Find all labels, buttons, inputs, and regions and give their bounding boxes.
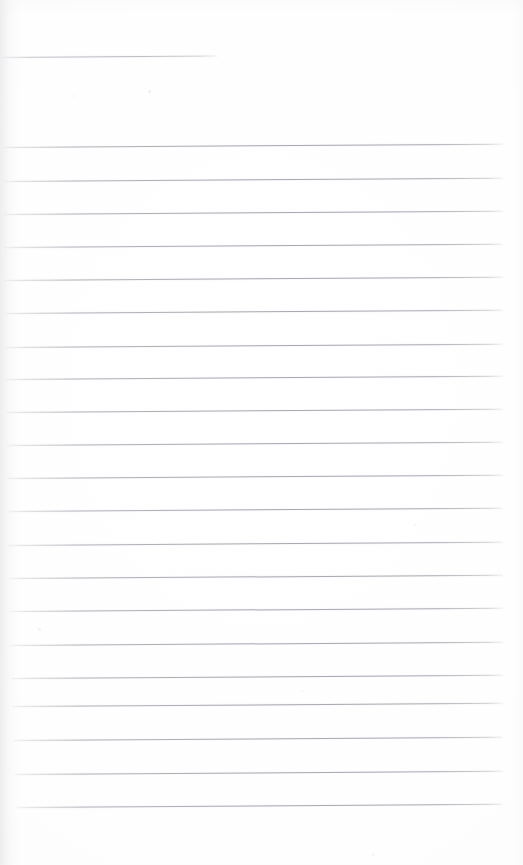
scanned-notebook-page: Blank ruled notebook page <box>0 0 523 865</box>
ruling-line-group <box>0 0 523 865</box>
